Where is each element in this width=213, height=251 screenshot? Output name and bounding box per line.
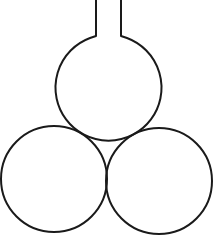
flask-outline xyxy=(55,0,161,141)
diagram-canvas xyxy=(0,0,213,251)
flask-on-spheres-diagram xyxy=(0,0,213,251)
left-sphere xyxy=(1,126,107,232)
right-sphere xyxy=(106,128,212,234)
